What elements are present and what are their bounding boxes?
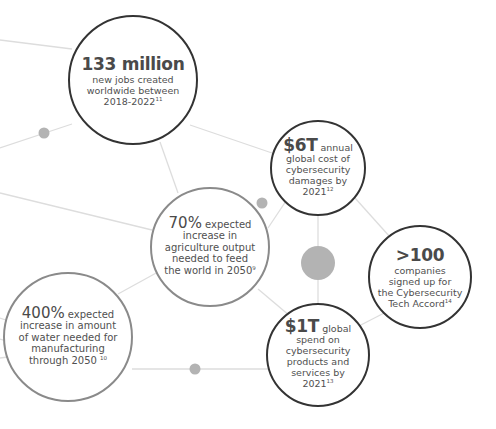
footnote-marker: 14 xyxy=(445,298,452,304)
headline-suffix: global xyxy=(319,323,351,334)
desc-line: increase in amount xyxy=(19,320,118,332)
desc-line: cybersecurity xyxy=(285,345,351,356)
connector-line xyxy=(160,142,178,193)
headline-suffix: expected xyxy=(202,219,252,230)
connector-line xyxy=(0,40,72,49)
desc-line: 202113 xyxy=(285,378,351,389)
footnote-marker: 12 xyxy=(327,185,334,191)
desc-line: through 2050 10 xyxy=(19,355,118,367)
connector-line xyxy=(355,198,390,237)
stat-headline: >100 xyxy=(396,245,445,265)
desc-text: 2021 xyxy=(302,186,326,197)
connector-line xyxy=(0,193,152,230)
stat-node-cyber-spend: $1T global spend on cybersecurity produc… xyxy=(266,303,370,407)
stat-node-tech-accord: >100 companies signed up for the Cyberse… xyxy=(368,225,472,329)
stat-headline: 400% xyxy=(22,304,65,322)
desc-line: the Cybersecurity xyxy=(378,287,463,298)
desc-line: signed up for xyxy=(378,276,463,287)
stat-description: $1T global spend on cybersecurity produc… xyxy=(285,321,351,389)
desc-line: 2018-202211 xyxy=(87,96,180,107)
desc-line: Tech Accord14 xyxy=(378,298,463,309)
desc-line: 400% expected xyxy=(19,308,118,321)
stat-description: 400% expected increase in amount of wate… xyxy=(19,308,118,367)
desc-line: products and xyxy=(285,356,351,367)
connector-line xyxy=(118,272,158,294)
desc-line: the world in 20509 xyxy=(164,265,256,277)
stat-headline: $1T xyxy=(285,316,319,336)
stat-node-water: 400% expected increase in amount of wate… xyxy=(3,272,133,402)
desc-line: 70% expected xyxy=(164,218,256,231)
connector-line xyxy=(258,289,290,316)
stat-node-jobs: 133 million new jobs created worldwide b… xyxy=(68,15,198,145)
connector-line xyxy=(190,125,272,153)
desc-line: agriculture output xyxy=(164,242,256,254)
headline-suffix: annual xyxy=(317,142,352,153)
stat-headline: 70% xyxy=(169,214,202,232)
stat-node-cyber-damage: $6T annual global cost of cybersecurity … xyxy=(270,120,366,216)
desc-text: 2021 xyxy=(302,378,326,389)
stat-description: $6T annual global cost of cybersecurity … xyxy=(283,140,353,197)
hub-dot xyxy=(301,246,335,280)
footnote-marker: 9 xyxy=(252,264,256,270)
desc-line: worldwide between xyxy=(87,85,180,96)
stat-node-agriculture: 70% expected increase in agriculture out… xyxy=(150,187,270,307)
connector-dot xyxy=(39,128,50,139)
stat-description: new jobs created worldwide between 2018-… xyxy=(87,74,180,107)
stat-description: companies signed up for the Cybersecurit… xyxy=(378,265,463,309)
desc-line: companies xyxy=(378,265,463,276)
desc-line: 202112 xyxy=(283,186,353,197)
stat-description: 70% expected increase in agriculture out… xyxy=(164,218,256,277)
desc-line: $1T global xyxy=(285,321,351,334)
desc-text: Tech Accord xyxy=(388,298,445,309)
stat-headline: 133 million xyxy=(82,54,185,74)
connector-dot xyxy=(257,198,268,209)
connector-line xyxy=(0,124,72,148)
connector-dot xyxy=(190,364,201,375)
headline-suffix: expected xyxy=(65,309,115,320)
desc-line: $6T annual xyxy=(283,140,353,153)
desc-line: new jobs created xyxy=(87,74,180,85)
desc-text: 2018-2022 xyxy=(104,96,156,107)
desc-line: increase in xyxy=(164,230,256,242)
infographic-network: 133 million new jobs created worldwide b… xyxy=(0,0,496,429)
footnote-marker: 11 xyxy=(155,95,162,101)
desc-text: the world in 2050 xyxy=(164,265,252,276)
desc-line: of water needed for xyxy=(19,332,118,344)
desc-line: services by xyxy=(285,367,351,378)
desc-line: cybersecurity xyxy=(283,164,353,175)
footnote-marker: 10 xyxy=(100,354,107,360)
desc-line: global cost of xyxy=(283,153,353,164)
desc-line: damages by xyxy=(283,175,353,186)
desc-line: needed to feed xyxy=(164,253,256,265)
footnote-marker: 13 xyxy=(327,378,334,384)
desc-text: through 2050 xyxy=(29,355,100,366)
stat-headline: $6T xyxy=(283,135,317,155)
desc-line: manufacturing xyxy=(19,343,118,355)
